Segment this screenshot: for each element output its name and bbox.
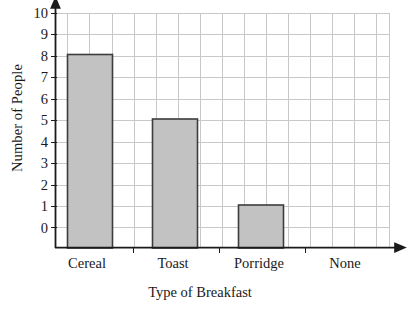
x-tick-label-cereal: Cereal [48,255,126,271]
x-tick-label-none: None [306,255,384,271]
x-tick-label-porridge: Porridge [220,255,298,271]
x-axis-title: Type of Breakfast [55,284,345,301]
bar-chart: Number of People 10 9 8 7 6 5 4 3 2 1 0 [0,0,410,310]
x-tick-label-toast: Toast [134,255,212,271]
x-axis-tick-labels: Cereal Toast Porridge None [0,0,410,310]
